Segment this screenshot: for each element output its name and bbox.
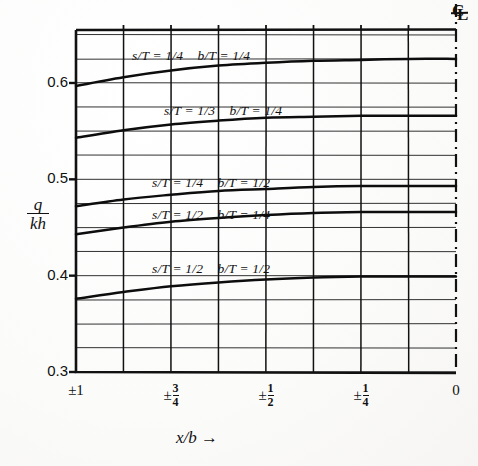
x-tick-label: 0 [426, 382, 478, 399]
x-tick-label: ±1 [46, 382, 106, 399]
y-tick-label: 0.5 [22, 169, 68, 186]
y-tick-label: 0.4 [22, 266, 68, 283]
x-tick-label: ±12 [236, 382, 296, 408]
curve-label-4: s/T = 1/2 b/T = 1/4 [152, 207, 270, 223]
x-tick-label: ±14 [331, 382, 391, 408]
curve-label-b-over-t: b/T = 1/4 [218, 207, 271, 222]
y-axis-label: q kh [12, 196, 64, 232]
curve-label-separator [203, 175, 217, 190]
x-axis-arrow-icon: → [201, 428, 217, 447]
figure-page: CL q kh x/b → 0.30.40.50.6 ±1±34±12±140 … [0, 0, 478, 466]
curve-label-separator [203, 261, 217, 276]
curve-label-3: s/T = 1/4 b/T = 1/2 [152, 175, 270, 191]
curve-label-s-over-t: s/T = 1/3 [164, 103, 215, 118]
curve-label-b-over-t: b/T = 1/4 [230, 103, 283, 118]
x-axis-label-text: x/b [176, 428, 197, 447]
curve-label-s-over-t: s/T = 1/4 [152, 175, 203, 190]
curve-label-separator [183, 48, 197, 63]
curve-label-b-over-t: b/T = 1/4 [198, 48, 251, 63]
x-tick-label: ±34 [141, 382, 201, 408]
curve-label-2: s/T = 1/3 b/T = 1/4 [164, 103, 282, 119]
curve-label-b-over-t: b/T = 1/2 [218, 261, 271, 276]
y-tick-label: 0.3 [22, 362, 68, 379]
curve-label-b-over-t: b/T = 1/2 [218, 175, 271, 190]
curve-label-1: s/T = 1/4 b/T = 1/4 [132, 48, 250, 64]
curve-label-s-over-t: s/T = 1/4 [132, 48, 183, 63]
y-axis-label-denominator: kh [27, 213, 49, 232]
x-axis-label: x/b → [176, 428, 217, 448]
curve-label-s-over-t: s/T = 1/2 [152, 207, 203, 222]
curve-label-separator [215, 103, 229, 118]
y-axis-label-numerator: q [27, 196, 49, 213]
curve-label-5: s/T = 1/2 b/T = 1/2 [152, 261, 270, 277]
y-tick-label: 0.6 [22, 73, 68, 90]
curve-label-s-over-t: s/T = 1/2 [152, 261, 203, 276]
vertical-gridlines [123, 30, 408, 372]
curve-label-separator [203, 207, 217, 222]
